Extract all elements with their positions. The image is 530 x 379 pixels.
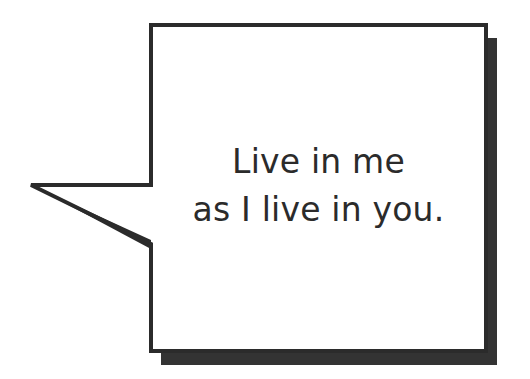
bubble-shadow-bottom xyxy=(161,351,497,365)
bubble-text-line-1: Live in me xyxy=(153,138,484,186)
bubble-text-line-2: as I live in you. xyxy=(153,186,484,234)
